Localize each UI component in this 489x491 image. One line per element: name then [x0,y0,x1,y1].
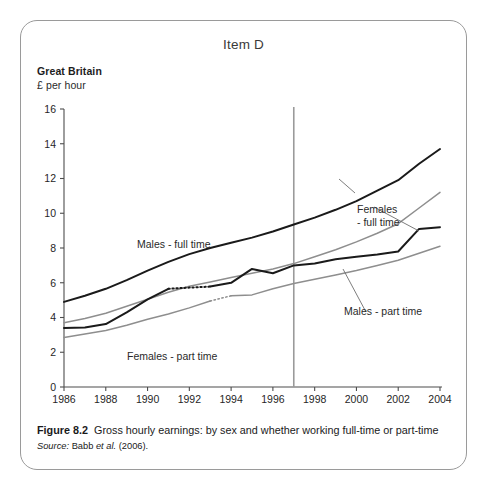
x-tick-label-1990: 1990 [136,393,160,405]
source-label: Source: [37,441,69,451]
y-tick-label-10: 10 [44,207,56,219]
x-tick-label-2000: 2000 [345,393,369,405]
source-author: Babb [72,441,94,451]
source-etal: et al. [96,441,116,451]
x-tick-label-1996: 1996 [261,393,285,405]
x-tick-label-1992: 1992 [178,393,202,405]
x-tick-label-1994: 1994 [219,393,243,405]
annotation-females-full-time-line2: - full time [357,216,400,228]
y-tick-label-0: 0 [50,381,56,393]
y-tick-label-4: 4 [50,311,56,323]
y-tick-label-16: 16 [44,103,56,115]
figure-caption-block: Figure 8.2 Gross hourly earnings: by sex… [37,423,453,451]
figure-card: Item D Great Britain £ per hour 02468101… [20,20,467,470]
source-year: (2006). [119,441,148,451]
series-line-2-a [64,289,168,328]
y-tick-label-14: 14 [44,138,56,150]
line-chart-svg: 0246810121416 19861988199019921994199619… [21,21,468,471]
x-axis-ticks: 1986198819901992199419961998200020022004 [52,387,452,405]
y-tick-label-12: 12 [44,172,56,184]
annotation-leader-lines [339,179,419,312]
y-axis-ticks: 0246810121416 [44,103,64,393]
figure-caption-text: Gross hourly earnings: by sex and whethe… [94,424,438,436]
annotation-males-part-time: Males - part time [344,305,422,317]
y-tick-label-2: 2 [50,346,56,358]
figure-caption: Figure 8.2 Gross hourly earnings: by sex… [37,423,453,438]
y-tick-label-6: 6 [50,277,56,289]
series-line-2-dotted [168,287,210,289]
x-tick-label-2002: 2002 [387,393,411,405]
x-tick-label-1988: 1988 [94,393,118,405]
chart-plot-area: 0246810121416 19861988199019921994199619… [21,21,468,471]
leader-females-full-time [339,179,355,193]
figure-source: Source: Babb et al. (2006). [37,441,453,451]
annotation-females-part-time: Females - part time [127,350,218,362]
y-tick-label-8: 8 [50,242,56,254]
series-line-3-dotted [210,296,231,301]
x-tick-label-2004: 2004 [428,393,452,405]
annotation-females-full-time-line1: Females [357,203,397,215]
figure-caption-label: Figure 8.2 [37,424,88,436]
x-tick-label-1998: 1998 [303,393,327,405]
x-tick-label-1986: 1986 [52,393,76,405]
annotation-males-full-time: Males - full time [137,238,211,250]
